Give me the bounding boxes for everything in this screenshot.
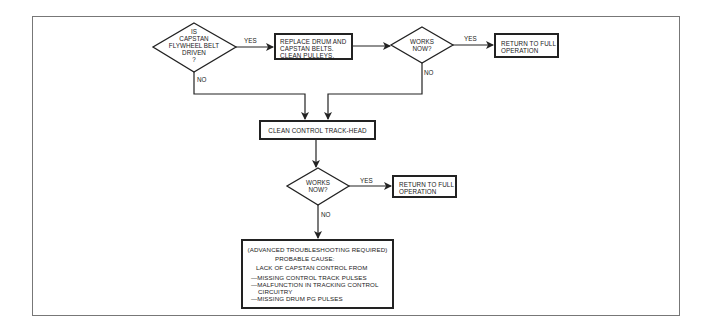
text-line: LACK OF CAPSTAN CONTROL FROM xyxy=(243,264,392,271)
d2-no-label: NO xyxy=(424,69,433,76)
replace-belts-box: REPLACE DRUM AND CAPSTAN BELTS. CLEAN PU… xyxy=(274,33,353,60)
text-line: —MISSING DRUM PG PULSES xyxy=(243,295,392,302)
text-line: (ADVANCED TROUBLESHOOTING REQUIRED) xyxy=(243,246,392,253)
text-line: NOW? xyxy=(397,45,447,52)
text-line: RETURN TO FULL xyxy=(501,40,557,47)
d3-yes-label: YES xyxy=(360,177,373,184)
d2-yes-label: YES xyxy=(464,35,477,42)
text-line: CAPSTAN BELTS. xyxy=(280,45,351,52)
decision-3-text: WORKS NOW? xyxy=(293,179,343,193)
text-line: CLEAN CONTROL TRACK-HEAD xyxy=(261,127,374,134)
decision-1-text: IS CAPSTAN FLYWHEEL BELT DRIVEN ? xyxy=(160,28,228,63)
text-line: WORKS xyxy=(397,38,447,45)
text-line: FLYWHEEL BELT xyxy=(160,42,228,49)
text-line: CIRCUITRY xyxy=(243,288,392,295)
decision-2-text: WORKS NOW? xyxy=(397,38,447,52)
d1-no-label: NO xyxy=(197,76,206,83)
text-line: REPLACE DRUM AND xyxy=(280,38,351,45)
text-line: NOW? xyxy=(293,186,343,193)
text-line: IS xyxy=(160,28,228,35)
text-line: CAPSTAN xyxy=(160,35,228,42)
return-full-operation-box-2: RETURN TO FULL OPERATION xyxy=(392,175,457,198)
text-line: ? xyxy=(160,56,228,63)
clean-track-head-box: CLEAN CONTROL TRACK-HEAD xyxy=(259,120,376,140)
d1-yes-label: YES xyxy=(244,37,257,44)
d3-no-label: NO xyxy=(321,211,330,218)
text-line: —MALFUNCTION IN TRACKING CONTROL xyxy=(243,281,392,288)
advanced-troubleshooting-box: (ADVANCED TROUBLESHOOTING REQUIRED) PROB… xyxy=(241,239,394,309)
text-line: CLEAN PULLEYS. xyxy=(280,52,351,59)
text-line: OPERATION xyxy=(399,188,455,195)
text-line: —MISSING CONTROL TRACK PULSES xyxy=(243,274,392,281)
text-line: DRIVEN xyxy=(160,49,228,56)
text-line: WORKS xyxy=(293,179,343,186)
text-line: RETURN TO FULL xyxy=(399,181,455,188)
text-line: PROBABLE CAUSE: xyxy=(243,255,392,262)
return-full-operation-box-1: RETURN TO FULL OPERATION xyxy=(494,33,559,58)
text-line: OPERATION xyxy=(501,47,557,54)
